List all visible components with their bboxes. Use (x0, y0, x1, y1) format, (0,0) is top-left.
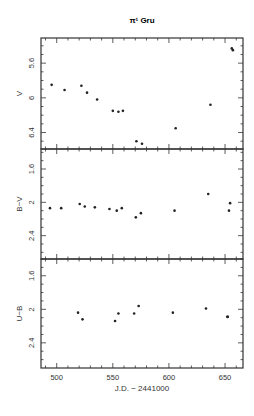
data-point (209, 103, 212, 106)
panel-3: 1.622.4U−B500550600650 (15, 259, 243, 382)
data-point (117, 110, 120, 113)
y-tick-label: 2.4 (27, 230, 36, 240)
data-point (117, 312, 120, 315)
y-tick-label: 1.6 (27, 164, 36, 174)
data-point (60, 207, 63, 210)
data-point (173, 209, 176, 212)
data-point (114, 320, 117, 323)
data-point (112, 110, 115, 113)
data-point (49, 207, 52, 210)
data-point (141, 142, 144, 145)
y-tick-label: 2 (27, 307, 36, 311)
data-point (229, 202, 232, 205)
plot-canvas: π¹ Gru 5.666.4V1.622.4B−V1.622.4U−B50055… (0, 0, 254, 416)
data-point (232, 49, 235, 52)
x-tick-label: 650 (219, 373, 232, 382)
data-point (135, 216, 138, 219)
data-point (78, 203, 81, 206)
y-tick-label: 2 (27, 200, 36, 204)
data-point (94, 206, 97, 209)
data-point (108, 208, 111, 211)
data-point (96, 98, 99, 101)
y-tick-label: 6 (27, 96, 36, 100)
data-point (207, 193, 210, 196)
data-point (77, 311, 80, 314)
panels: 5.666.4V1.622.4B−V1.622.4U−B500550600650 (15, 38, 243, 382)
x-axis-label: J.D. − 2441000 (115, 384, 170, 393)
light-curve-figure: π¹ Gru 5.666.4V1.622.4B−V1.622.4U−B50055… (0, 0, 254, 416)
panel-frame (41, 38, 243, 149)
data-point (228, 209, 231, 212)
panel-frame (41, 259, 243, 368)
x-tick-label: 600 (163, 373, 176, 382)
panel-1: 5.666.4V (15, 38, 243, 149)
data-point (122, 110, 125, 113)
data-point (133, 312, 136, 315)
data-point (140, 212, 143, 215)
data-point (227, 316, 230, 319)
y-axis-label: U−B (15, 306, 24, 322)
y-tick-label: 1.6 (27, 271, 36, 281)
data-point (115, 209, 118, 212)
x-tick-label: 550 (107, 373, 120, 382)
data-point (172, 311, 175, 314)
y-axis-label: V (15, 90, 24, 96)
panel-frame (41, 149, 243, 259)
data-point (50, 84, 53, 87)
data-point (81, 318, 84, 321)
data-point (205, 307, 208, 310)
data-point (83, 205, 86, 208)
chart-title: π¹ Gru (129, 16, 154, 25)
data-point (86, 91, 89, 94)
panel-2: 1.622.4B−V (15, 149, 243, 259)
data-point (121, 207, 124, 210)
y-tick-label: 2.4 (27, 338, 36, 348)
data-point (135, 140, 138, 143)
data-point (63, 89, 66, 92)
y-tick-label: 6.4 (27, 127, 36, 137)
data-point (174, 127, 177, 130)
data-point (137, 305, 140, 308)
x-tick-label: 500 (50, 373, 63, 382)
data-point (80, 84, 83, 87)
y-axis-label: B−V (15, 196, 24, 212)
y-tick-label: 5.6 (27, 58, 36, 68)
